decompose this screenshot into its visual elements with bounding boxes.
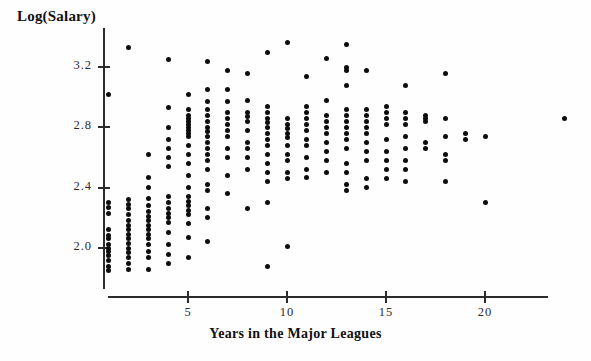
scatter-plot-figure: Log(Salary) 2.02.42.83.2 5101520 Years i…	[0, 0, 591, 361]
data-point	[186, 161, 191, 166]
data-point	[324, 98, 329, 103]
data-point	[126, 255, 131, 260]
data-point	[403, 179, 408, 184]
data-point	[364, 140, 369, 145]
data-point	[483, 134, 488, 139]
data-point	[146, 249, 151, 254]
data-point	[166, 57, 171, 62]
data-point	[364, 113, 369, 118]
data-point	[205, 167, 210, 172]
data-point	[225, 128, 230, 133]
data-point	[265, 125, 270, 130]
y-tick-label: 2.0	[52, 239, 92, 254]
data-point	[364, 131, 369, 136]
x-tick-label: 15	[371, 305, 401, 320]
data-point	[285, 158, 290, 163]
data-point	[304, 104, 309, 109]
data-point	[205, 113, 210, 118]
x-tick-mark	[286, 291, 288, 303]
data-point	[344, 182, 349, 187]
data-point	[364, 68, 369, 73]
y-tick-mark	[98, 187, 110, 189]
x-tick-mark	[484, 291, 486, 303]
data-point	[225, 110, 230, 115]
data-point	[324, 125, 329, 130]
data-point	[304, 143, 309, 148]
data-point	[245, 119, 250, 124]
data-point	[146, 236, 151, 241]
data-point	[166, 164, 171, 169]
data-point	[344, 68, 349, 73]
data-point	[423, 119, 428, 124]
data-point	[324, 140, 329, 145]
data-point	[285, 116, 290, 121]
data-point	[403, 134, 408, 139]
data-point	[364, 185, 369, 190]
data-point	[186, 152, 191, 157]
data-point	[304, 116, 309, 121]
data-point	[384, 104, 389, 109]
data-point	[265, 170, 270, 175]
data-point	[205, 239, 210, 244]
data-point	[205, 59, 210, 64]
data-point	[166, 137, 171, 142]
y-tick-mark	[98, 126, 110, 128]
data-point	[304, 74, 309, 79]
data-point	[106, 205, 111, 210]
data-point	[304, 137, 309, 142]
data-point	[403, 158, 408, 163]
data-point	[423, 146, 428, 151]
data-point	[265, 264, 270, 269]
data-point	[106, 211, 111, 216]
data-point	[304, 110, 309, 115]
data-point	[344, 161, 349, 166]
data-point	[225, 87, 230, 92]
data-point	[423, 140, 428, 145]
data-point	[344, 119, 349, 124]
data-point	[324, 119, 329, 124]
data-point	[344, 113, 349, 118]
data-point	[344, 131, 349, 136]
data-point	[186, 235, 191, 240]
data-point	[364, 107, 369, 112]
data-point	[443, 134, 448, 139]
data-point	[106, 268, 111, 273]
data-point	[463, 137, 468, 142]
data-point	[265, 161, 270, 166]
x-tick-label: 5	[173, 305, 203, 320]
data-point	[146, 255, 151, 260]
data-point	[443, 158, 448, 163]
data-point	[146, 196, 151, 201]
data-point	[265, 110, 270, 115]
data-point	[285, 170, 290, 175]
data-point	[245, 128, 250, 133]
data-point	[146, 152, 151, 157]
data-point	[265, 50, 270, 55]
data-point	[166, 220, 171, 225]
data-point	[166, 261, 171, 266]
data-point	[186, 173, 191, 178]
data-point	[245, 206, 250, 211]
data-point	[205, 107, 210, 112]
data-point	[364, 176, 369, 181]
data-point	[106, 227, 111, 232]
data-point	[304, 128, 309, 133]
data-point	[186, 107, 191, 112]
x-axis-title: Years in the Major Leagues	[0, 326, 591, 342]
data-point	[364, 125, 369, 130]
data-point	[364, 158, 369, 163]
data-point	[265, 179, 270, 184]
data-point	[245, 155, 250, 160]
data-point	[245, 98, 250, 103]
data-point	[205, 206, 210, 211]
data-point	[126, 267, 131, 272]
data-point	[265, 137, 270, 142]
data-point	[384, 122, 389, 127]
data-point	[186, 221, 191, 226]
data-point	[186, 255, 191, 260]
data-point	[245, 146, 250, 151]
data-point	[285, 40, 290, 45]
data-point	[186, 134, 191, 139]
data-point	[443, 71, 448, 76]
data-point	[225, 173, 230, 178]
